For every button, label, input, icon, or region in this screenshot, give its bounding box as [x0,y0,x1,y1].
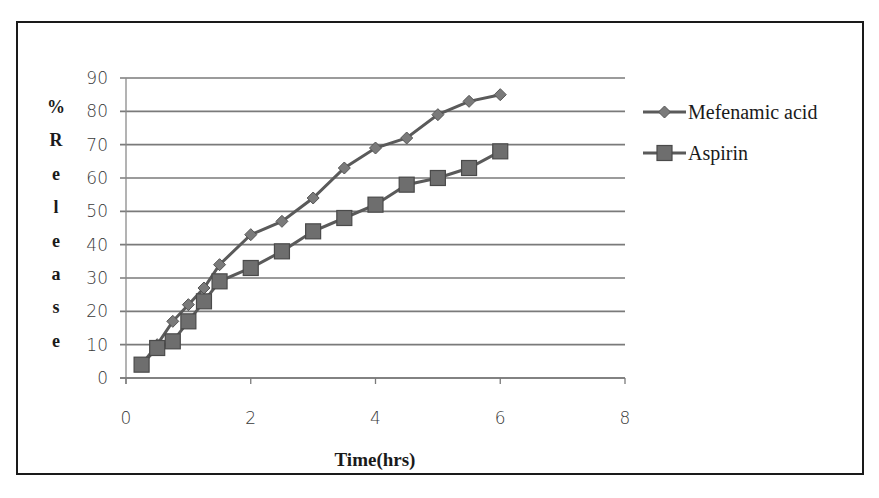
square-marker [212,274,227,289]
diamond-marker [659,106,671,118]
square-marker [657,146,672,161]
square-marker [150,341,165,356]
y-label-letter: e [52,331,60,351]
square-marker [430,171,445,186]
gridlines [120,78,625,378]
x-axis-ticks: 02468 [121,378,631,428]
y-tick-label: 70 [86,135,108,155]
y-axis-ticks: 0102030405060708090 [86,68,108,388]
square-marker [462,161,477,176]
y-label-letter: e [52,164,60,184]
y-tick-label: 60 [86,168,108,188]
x-tick-label: 8 [620,408,631,428]
data-series [134,89,508,373]
square-marker [274,244,289,259]
release-chart: 0102030405060708090 02468 %Release Time(… [0,0,879,498]
y-tick-label: 30 [86,268,108,288]
y-axis-label: %Release [47,97,65,351]
y-tick-label: 20 [86,301,108,321]
square-marker [134,357,149,372]
legend-item: Mefenamic acid [643,101,817,123]
square-marker [306,224,321,239]
square-marker [196,294,211,309]
axes [120,78,625,384]
x-tick-label: 0 [121,408,132,428]
y-label-letter: e [52,231,60,251]
diamond-marker [463,95,475,107]
y-label-letter: R [50,130,64,150]
y-tick-label: 80 [86,101,108,121]
square-marker [181,314,196,329]
diamond-marker [494,89,506,101]
square-marker [493,144,508,159]
square-marker [399,177,414,192]
square-marker [368,197,383,212]
y-tick-label: 90 [86,68,108,88]
legend-label: Aspirin [688,142,748,165]
x-tick-label: 4 [370,408,381,428]
y-tick-label: 50 [86,201,108,221]
y-label-letter: s [52,297,59,317]
y-label-letter: a [52,264,61,284]
y-tick-label: 10 [86,335,108,355]
square-marker [243,261,258,276]
legend-label: Mefenamic acid [688,101,817,123]
y-tick-label: 0 [97,368,108,388]
y-tick-label: 40 [86,235,108,255]
y-label-letter: % [47,97,65,117]
series-line [142,151,501,364]
legend-item: Aspirin [643,142,748,165]
square-marker [165,334,180,349]
legend: Mefenamic acidAspirin [643,101,817,165]
x-axis-label: Time(hrs) [335,449,416,471]
y-label-letter: l [53,197,58,217]
x-tick-label: 6 [495,408,506,428]
x-tick-label: 2 [245,408,256,428]
square-marker [337,211,352,226]
